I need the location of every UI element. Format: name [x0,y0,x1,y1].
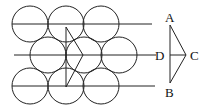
label-c: C [190,48,199,63]
label-d: D [155,48,164,63]
triangle-abc [170,25,186,83]
packing-diagram: A B C D [0,0,210,107]
inner-triangle [66,27,83,87]
label-a: A [165,10,175,25]
label-b: B [165,85,174,100]
